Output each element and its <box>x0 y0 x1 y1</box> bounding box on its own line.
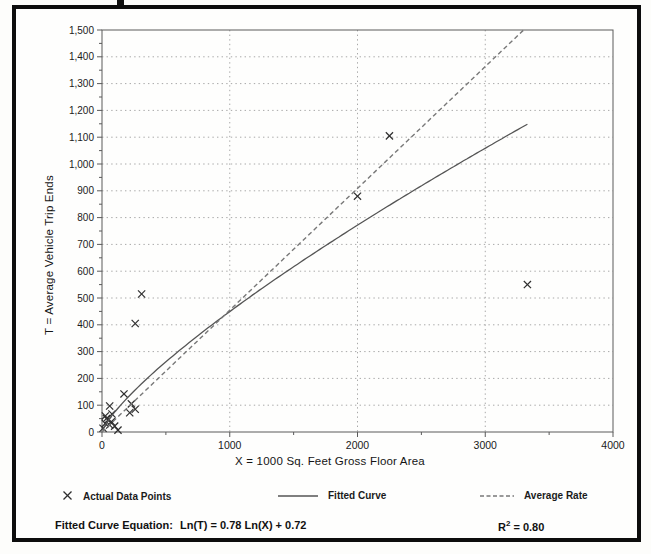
legend-item-average-rate: Average Rate <box>480 490 588 501</box>
y-tick-label: 700 <box>77 239 94 250</box>
y-tick-label: 1,400 <box>69 51 94 62</box>
solid-line-icon <box>278 490 318 501</box>
y-tick-label: 100 <box>77 400 94 411</box>
legend-label-average-rate: Average Rate <box>524 490 588 501</box>
x-axis-title: X = 1000 Sq. Feet Gross Floor Area <box>235 455 425 467</box>
fitted-curve-line <box>103 124 528 430</box>
legend-label-actual-data-points: Actual Data Points <box>83 491 171 502</box>
r-squared-base: R <box>498 521 506 533</box>
y-tick-label: 900 <box>77 185 94 196</box>
x-tick-label: 4000 <box>601 439 625 451</box>
x-tick-label: 3000 <box>474 439 498 451</box>
y-tick-label: 200 <box>77 373 94 384</box>
trip-generation-chart-figure: 01002003004005006007008009001,0001,1001,… <box>0 0 651 554</box>
x-tick-label: 1000 <box>218 439 242 451</box>
y-tick-label: 1,500 <box>69 25 94 36</box>
y-tick-label: 400 <box>77 319 94 330</box>
x-marker-icon <box>62 490 73 503</box>
y-tick-label: 300 <box>77 346 94 357</box>
average-rate-line <box>102 30 524 432</box>
y-tick-label: 500 <box>77 293 94 304</box>
x-tick-label: 0 <box>99 439 105 451</box>
y-tick-label: 1,000 <box>69 159 94 170</box>
equation-body: Ln(T) = 0.78 Ln(X) + 0.72 <box>180 519 307 531</box>
legend: Actual Data Points Fitted Curve Average … <box>0 490 651 506</box>
equation-prefix: Fitted Curve Equation: <box>55 519 173 531</box>
scatter-plot-canvas: 01002003004005006007008009001,0001,1001,… <box>0 0 651 554</box>
r-squared-value: R2 = 0.80 <box>498 519 544 533</box>
y-tick-label: 600 <box>77 266 94 277</box>
fitted-curve-equation: Fitted Curve Equation:Ln(T) = 0.78 Ln(X)… <box>55 519 307 531</box>
x-tick-label: 2000 <box>346 439 370 451</box>
y-tick-label: 1,300 <box>69 78 94 89</box>
y-tick-label: 1,100 <box>69 132 94 143</box>
dashed-line-icon <box>480 490 514 501</box>
y-tick-label: 800 <box>77 212 94 223</box>
y-tick-label: 1,200 <box>69 105 94 116</box>
y-tick-label: 0 <box>88 427 94 438</box>
equation-row: Fitted Curve Equation:Ln(T) = 0.78 Ln(X)… <box>0 519 651 537</box>
r-squared-rest: = 0.80 <box>510 521 544 533</box>
legend-item-actual-data-points: Actual Data Points <box>62 490 171 503</box>
y-axis-title: T = Average Vehicle Trip Ends <box>43 175 55 335</box>
legend-label-fitted-curve: Fitted Curve <box>328 490 386 501</box>
legend-item-fitted-curve: Fitted Curve <box>278 490 386 501</box>
